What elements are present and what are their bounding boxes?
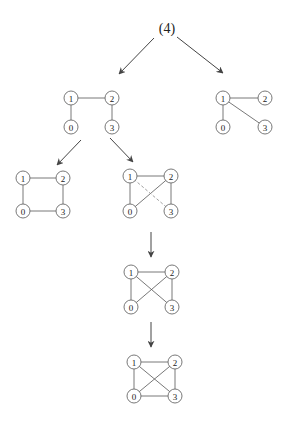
node-label: 2 — [263, 94, 268, 104]
arrow-root-to-right — [177, 37, 223, 73]
arrow-left-to-dashed — [110, 138, 133, 162]
node-2: 2 — [258, 91, 272, 105]
node-1: 1 — [124, 265, 138, 279]
arrow-root-to-left — [119, 38, 154, 74]
graph-level2-right: 1203 — [123, 169, 178, 218]
node-label: 2 — [110, 94, 115, 104]
node-label: 3 — [170, 303, 175, 313]
node-3: 3 — [56, 204, 70, 218]
node-2: 2 — [164, 169, 178, 183]
node-2: 2 — [165, 265, 179, 279]
node-label: 3 — [173, 392, 178, 402]
node-0: 0 — [64, 120, 78, 134]
graphs: 120312031203120312031203 — [16, 91, 272, 403]
node-label: 1 — [21, 174, 26, 184]
node-3: 3 — [165, 300, 179, 314]
node-label: 2 — [173, 358, 178, 368]
edge-1-3 — [223, 98, 265, 127]
graph-level4: 1203 — [127, 355, 182, 403]
node-label: 1 — [132, 358, 137, 368]
node-label: 2 — [61, 174, 66, 184]
arrow-left-to-square — [57, 140, 81, 165]
node-3: 3 — [168, 389, 182, 403]
node-label: 3 — [110, 123, 115, 133]
node-3: 3 — [164, 204, 178, 218]
node-label: 1 — [69, 94, 74, 104]
node-label: 3 — [263, 123, 268, 133]
arrows — [57, 37, 223, 347]
node-label: 3 — [169, 207, 174, 217]
node-3: 3 — [105, 120, 119, 134]
node-1: 1 — [64, 91, 78, 105]
node-1: 1 — [216, 91, 230, 105]
node-3: 3 — [258, 120, 272, 134]
node-2: 2 — [168, 355, 182, 369]
node-label: 0 — [21, 207, 26, 217]
graph-derivation-diagram: (4) 120312031203120312031203 — [0, 0, 290, 429]
node-2: 2 — [105, 91, 119, 105]
graph-level1-right: 1203 — [216, 91, 272, 134]
node-label: 0 — [69, 123, 74, 133]
node-label: 0 — [128, 207, 133, 217]
node-label: 1 — [128, 172, 133, 182]
node-label: 3 — [61, 207, 66, 217]
node-2: 2 — [56, 171, 70, 185]
node-label: 1 — [221, 94, 226, 104]
node-1: 1 — [123, 169, 137, 183]
node-0: 0 — [123, 204, 137, 218]
node-label: 1 — [129, 268, 134, 278]
node-0: 0 — [127, 389, 141, 403]
node-label: 0 — [132, 392, 137, 402]
node-1: 1 — [127, 355, 141, 369]
node-0: 0 — [216, 120, 230, 134]
graph-level1-left: 1203 — [64, 91, 119, 134]
node-label: 0 — [129, 303, 134, 313]
node-0: 0 — [16, 204, 30, 218]
graph-level2-left: 1203 — [16, 171, 70, 218]
node-label: 2 — [170, 268, 175, 278]
node-label: 2 — [169, 172, 174, 182]
graph-level3: 1203 — [124, 265, 179, 314]
root-label: (4) — [159, 21, 176, 37]
node-0: 0 — [124, 300, 138, 314]
node-1: 1 — [16, 171, 30, 185]
node-label: 0 — [221, 123, 226, 133]
